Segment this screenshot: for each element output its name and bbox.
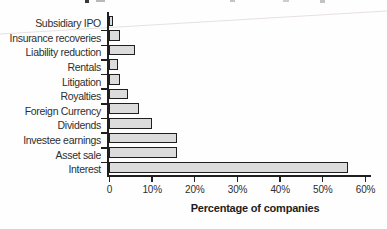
bar-track <box>107 117 387 128</box>
category-label: Foreign Currency <box>0 106 107 117</box>
category-label: Investee earnings <box>0 135 107 146</box>
x-axis-tick <box>194 176 196 182</box>
bar <box>109 45 135 56</box>
bar <box>109 30 120 41</box>
category-label: Asset sale <box>0 150 107 161</box>
y-axis-tick <box>101 59 107 61</box>
bar-row: Asset sale <box>0 147 387 162</box>
x-axis-tick <box>109 176 111 182</box>
bar <box>109 103 139 114</box>
x-axis-tick-label: 20% <box>185 184 204 195</box>
x-axis-tick-label: 10% <box>142 184 161 195</box>
y-axis-line <box>107 12 109 176</box>
bar <box>109 118 152 129</box>
x-axis-tick-label: 30% <box>228 184 247 195</box>
x-axis-tick <box>237 176 239 182</box>
bar-track <box>107 44 387 55</box>
x-axis-line <box>107 175 371 177</box>
bar-row: Investee earnings <box>0 132 387 147</box>
y-axis-tick <box>101 118 107 120</box>
y-axis-tick <box>101 103 107 105</box>
y-axis-tick <box>101 162 107 164</box>
bar-track <box>107 59 387 70</box>
category-label: Liability reduction <box>0 47 107 58</box>
x-axis-tick <box>322 176 324 182</box>
y-axis-tick <box>101 88 107 90</box>
bar-track <box>107 74 387 85</box>
bar-row: Rentals <box>0 59 387 74</box>
bar-rows: Subsidiary IPOInsurance recoveriesLiabil… <box>0 15 387 176</box>
bar-track <box>107 147 387 158</box>
scanned-bar-chart-page: Subsidiary IPOInsurance recoveriesLiabil… <box>0 0 387 229</box>
category-label: Dividends <box>0 120 107 131</box>
bar-track <box>107 103 387 114</box>
y-axis-tick <box>101 74 107 76</box>
bar-track <box>107 88 387 99</box>
category-label: Subsidiary IPO <box>0 18 107 29</box>
bar-track <box>107 132 387 143</box>
category-label: Insurance recoveries <box>0 33 107 44</box>
bar <box>109 16 113 27</box>
category-label: Rentals <box>0 62 107 73</box>
bar <box>109 147 177 158</box>
x-axis-tick-label: 60% <box>356 184 375 195</box>
bar-row: Subsidiary IPO <box>0 15 387 30</box>
x-axis-tick-label: 50% <box>313 184 332 195</box>
bar <box>109 89 128 100</box>
bar-row: Foreign Currency <box>0 103 387 118</box>
bar-row: Liability reduction <box>0 44 387 59</box>
x-axis-tick <box>279 176 281 182</box>
bar <box>109 74 120 85</box>
x-axis-tick-label: 40% <box>270 184 289 195</box>
bar-track <box>107 161 387 172</box>
bar <box>109 133 177 144</box>
x-axis-tick <box>365 176 367 182</box>
category-label: Interest <box>0 164 107 175</box>
bar-row: Litigation <box>0 74 387 89</box>
bar <box>109 162 348 173</box>
category-label: Royalties <box>0 91 107 102</box>
y-axis-tick <box>101 147 107 149</box>
y-axis-tick <box>101 132 107 134</box>
x-axis-tick <box>151 176 153 182</box>
bar-row: Insurance recoveries <box>0 30 387 45</box>
bar-track <box>107 30 387 41</box>
x-axis-tick-label: 0 <box>107 184 112 195</box>
category-label: Litigation <box>0 77 107 88</box>
bar-row: Royalties <box>0 88 387 103</box>
x-axis-title: Percentage of companies <box>107 202 371 214</box>
y-axis-tick <box>101 30 107 32</box>
bar-track <box>107 15 387 26</box>
y-axis-tick <box>101 45 107 47</box>
bar <box>109 59 118 70</box>
bar-chart: Subsidiary IPOInsurance recoveriesLiabil… <box>0 0 387 229</box>
bar-row: Dividends <box>0 117 387 132</box>
